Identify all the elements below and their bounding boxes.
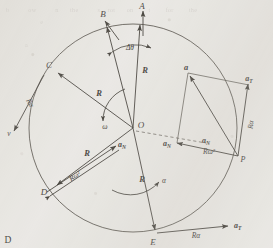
radius-label-OD: R — [83, 148, 90, 158]
tangential-acceleration-label-at-P: aT — [245, 74, 253, 84]
alpha-label: α — [162, 176, 167, 185]
radius-vector-OC — [58, 73, 133, 128]
R-alpha-label-at-C: Rα — [24, 96, 37, 110]
point-label-E: E — [149, 237, 156, 247]
resultant-acceleration-vector-at-P — [190, 76, 238, 156]
radius-label-OA: R — [141, 65, 148, 75]
tangential-acceleration-label-at-E: aT — [234, 221, 242, 231]
radius-label-OE: R — [138, 174, 145, 184]
point-label-C: C — [46, 60, 53, 70]
normal-acceleration-vector-at-D-outer — [47, 146, 116, 192]
delta-theta-label: Δθ — [125, 43, 134, 52]
omega-label: ω — [102, 122, 107, 131]
angular-velocity-arc — [103, 89, 125, 121]
velocity-vector-at-B — [105, 21, 119, 40]
R-omega-squared-label-at-P: Rω² — [202, 147, 216, 156]
R-alpha-label-at-P: Rα — [245, 119, 255, 131]
parallelogram-side-left — [177, 73, 188, 143]
center-label-O: O — [138, 120, 145, 130]
resultant-acceleration-label: a — [184, 62, 189, 72]
R-omega-squared-label-at-D: Rω² — [66, 168, 83, 183]
dashed-reference-line-OP — [136, 131, 206, 143]
normal-acceleration-label-at-P: aN — [163, 139, 172, 149]
normal-acceleration-label-center: aN — [202, 136, 211, 146]
point-label-A: A — [138, 1, 145, 11]
angular-acceleration-arc — [112, 182, 159, 195]
R-alpha-label-at-E: Rα — [191, 231, 202, 240]
point-label-D: D — [40, 187, 48, 197]
parallelogram-side-top — [188, 73, 249, 85]
radius-label-OC: R — [95, 88, 102, 98]
normal-acceleration-label-at-D: aN — [118, 140, 127, 150]
velocity-label-at-C: v — [7, 129, 11, 138]
panel-label: D — [5, 235, 12, 245]
point-label-B: B — [100, 9, 106, 19]
point-label-P: P — [240, 155, 246, 164]
kinematics-rotation-figure: A B C D E P O R R R R Δθ ω α v Rα Rω² aN… — [0, 0, 273, 248]
radius-vector-OA — [133, 25, 140, 128]
